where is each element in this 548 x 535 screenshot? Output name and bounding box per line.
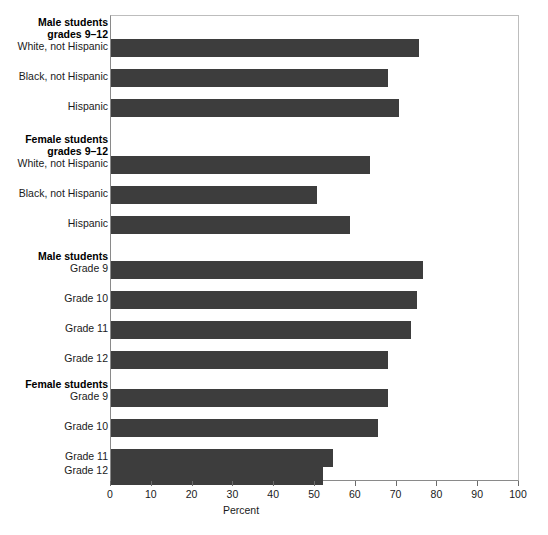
group-heading-female-grades: Female students [0, 378, 108, 390]
x-axis-tick [396, 481, 397, 486]
x-axis-tick [518, 481, 519, 486]
bar-row [111, 351, 388, 369]
x-axis-tick [110, 481, 111, 486]
bar [111, 69, 388, 87]
x-axis-tick [355, 481, 356, 486]
horizontal-bar-chart: Male students grades 9–12 White, not His… [0, 0, 548, 535]
bar-row [111, 389, 388, 407]
category-label-male-hispanic: Hispanic [0, 100, 108, 112]
category-label-male-grade-12: Grade 12 [0, 352, 108, 364]
category-label-male-white: White, not Hispanic [0, 40, 108, 52]
bar-row [111, 216, 350, 234]
x-axis-tick-label: 100 [509, 488, 527, 500]
category-label-female-grade-10: Grade 10 [0, 420, 108, 432]
bars-container [111, 15, 519, 481]
x-axis-tick-label: 50 [308, 488, 320, 500]
x-axis-tick-label: 70 [390, 488, 402, 500]
group-heading-female-912-line2: grades 9–12 [0, 145, 108, 157]
bar-row [111, 39, 419, 57]
x-axis-tick [273, 481, 274, 486]
category-axis-labels: Male students grades 9–12 White, not His… [0, 0, 108, 535]
x-axis-tick-label: 90 [471, 488, 483, 500]
x-axis-tick-label: 80 [431, 488, 443, 500]
x-axis-tick-label: 30 [227, 488, 239, 500]
bar-row [111, 419, 378, 437]
x-axis-tick-label: 40 [267, 488, 279, 500]
x-axis: 0102030405060708090100 Percent [0, 481, 548, 535]
bar-row [111, 69, 388, 87]
category-label-female-white: White, not Hispanic [0, 157, 108, 169]
x-axis-tick [314, 481, 315, 486]
bar [111, 261, 423, 279]
group-heading-female-912-line1: Female students [0, 133, 108, 145]
bar [111, 449, 333, 467]
bar [111, 291, 417, 309]
category-label-male-grade-10: Grade 10 [0, 292, 108, 304]
x-axis-tick [477, 481, 478, 486]
bar [111, 321, 411, 339]
bar-row [111, 186, 317, 204]
bar [111, 351, 388, 369]
x-axis-tick-label: 0 [107, 488, 113, 500]
bar [111, 216, 350, 234]
group-heading-male-912-line1: Male students [0, 16, 108, 28]
group-heading-male-grades: Male students [0, 250, 108, 262]
bar [111, 156, 370, 174]
bar [111, 186, 317, 204]
bar-row [111, 321, 411, 339]
bar-row [111, 291, 417, 309]
x-axis-title-text: Percent [223, 504, 259, 516]
category-label-female-hispanic: Hispanic [0, 217, 108, 229]
bar [111, 389, 388, 407]
figure-caption-cropped [0, 528, 548, 535]
x-axis-tick [151, 481, 152, 486]
x-axis-tick-label: 10 [145, 488, 157, 500]
x-axis-tick-label: 60 [349, 488, 361, 500]
bar-row [111, 261, 423, 279]
category-label-female-black: Black, not Hispanic [0, 187, 108, 199]
category-label-male-grade-9: Grade 9 [0, 262, 108, 274]
x-axis-tick [232, 481, 233, 486]
x-axis-tick-label: 20 [186, 488, 198, 500]
bar-row [111, 156, 370, 174]
x-axis-tick [436, 481, 437, 486]
bar-row [111, 99, 399, 117]
x-axis-tick [192, 481, 193, 486]
bar [111, 39, 419, 57]
category-label-female-grade-9: Grade 9 [0, 390, 108, 402]
bar [111, 99, 399, 117]
category-label-female-grade-12: Grade 12 [0, 464, 108, 476]
category-label-male-black: Black, not Hispanic [0, 70, 108, 82]
category-label-male-grade-11: Grade 11 [0, 322, 108, 334]
bar-row [111, 449, 333, 467]
bar [111, 419, 378, 437]
x-axis-title: Percent [0, 504, 548, 516]
category-label-female-grade-11: Grade 11 [0, 450, 108, 462]
group-heading-male-912-line2: grades 9–12 [0, 28, 108, 40]
